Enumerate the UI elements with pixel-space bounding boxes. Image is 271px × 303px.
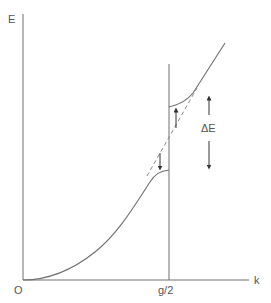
- y-axis-label: E: [8, 13, 15, 25]
- zone-boundary-label: g/2: [158, 284, 173, 296]
- x-axis-label: k: [254, 274, 260, 286]
- free-electron-dashed-line: [147, 88, 197, 176]
- lower-band-curve: [23, 170, 169, 280]
- gap-label: ΔE: [201, 122, 216, 134]
- upper-band-curve: [169, 43, 225, 107]
- band-gap-diagram: E k O g/2 ΔE: [0, 0, 271, 303]
- origin-label: O: [14, 284, 23, 296]
